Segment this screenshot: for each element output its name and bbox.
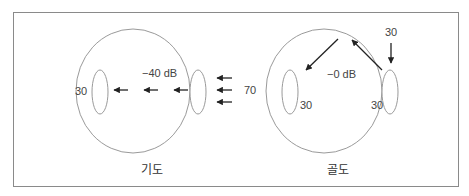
bone-attenuation-label: −0 dB bbox=[327, 69, 356, 80]
diagram-canvas bbox=[0, 0, 469, 196]
left-ear-icon bbox=[282, 70, 298, 114]
air-far-ear-level: 30 bbox=[75, 86, 87, 97]
bone-left-ear-level: 30 bbox=[300, 100, 312, 111]
air-attenuation-label: −40 dB bbox=[142, 68, 177, 79]
bone-right-ear-level: 30 bbox=[371, 100, 383, 111]
bone-input-level: 30 bbox=[385, 27, 397, 38]
arrow-icon bbox=[352, 40, 382, 70]
bone-conduction-caption: 골도 bbox=[327, 164, 349, 176]
bone-conduction-head bbox=[266, 29, 398, 153]
right-ear-icon bbox=[190, 70, 206, 114]
air-conduction-head bbox=[76, 29, 232, 153]
air-conduction-caption: 기도 bbox=[141, 164, 163, 176]
air-input-level: 70 bbox=[244, 85, 256, 96]
arrow-icon bbox=[306, 39, 338, 70]
left-ear-icon bbox=[92, 70, 108, 114]
right-ear-icon bbox=[382, 70, 398, 114]
